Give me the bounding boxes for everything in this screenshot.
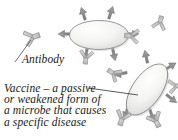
antibody-icon (167, 78, 178, 94)
microbe-bottom-group (113, 49, 178, 123)
vaccine-label: Vaccine – a passive or weakened form of … (4, 83, 106, 128)
antibody-y-icon (22, 27, 42, 47)
arrow-icon (141, 49, 151, 63)
antibody-label: Antibody (22, 54, 64, 66)
arrow-icon (78, 6, 89, 21)
antibody-icon (151, 14, 169, 31)
vaccine-label-line-4: a specific disease (4, 117, 106, 128)
vaccine-label-line-3: a microbe that causes (4, 105, 106, 116)
arrow-icon (105, 5, 116, 20)
antibody-icon (104, 64, 123, 84)
vaccine-antibody-figure: Antibody Vaccine – a passive or weakened… (0, 0, 178, 140)
antibody-icon (145, 110, 166, 130)
microbe-top (70, 21, 129, 50)
